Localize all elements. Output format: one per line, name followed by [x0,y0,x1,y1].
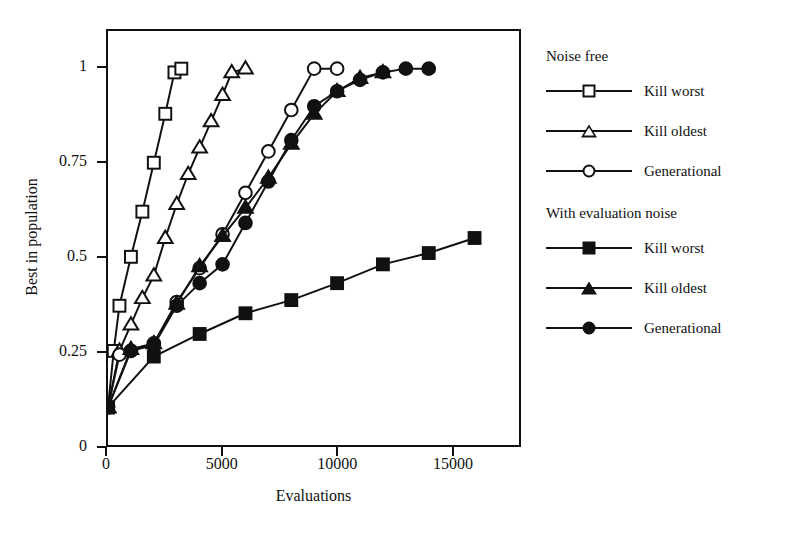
data-point [422,62,435,75]
chart-legend: Noise freeKill worstKill oldestGeneratio… [546,48,792,348]
triangle-open-icon [581,125,597,138]
data-point [193,277,206,290]
data-point [262,175,275,188]
chart-figure: 00.250.50.751 050001000015000 Evaluation… [0,0,800,538]
data-point [194,328,206,340]
data-point [204,114,219,126]
legend-marker-sample [546,277,632,299]
data-point [125,251,137,263]
legend-item[interactable]: Kill oldest [546,268,792,308]
legend-label: Generational [632,320,721,337]
circle-filled-icon [583,322,596,335]
legend-item[interactable]: Kill oldest [546,111,792,151]
legend-marker-sample [546,317,632,339]
data-point [399,62,412,75]
data-point [285,134,298,147]
series-kill-worst [108,232,481,413]
legend-item[interactable]: Kill worst [546,228,792,268]
data-point [285,294,297,306]
data-point [331,62,344,75]
data-point [148,157,160,169]
legend-label: Kill worst [632,83,704,100]
legend-marker-sample [546,120,632,142]
data-point [239,217,252,230]
data-point [377,66,390,79]
legend-item[interactable]: Kill worst [546,71,792,111]
data-point [240,307,252,319]
data-point [135,291,150,303]
y-tick-mark [97,351,106,353]
data-point [216,258,229,271]
data-point [354,74,367,87]
plot-area [106,29,521,447]
y-tick-label: 0.5 [67,248,87,264]
x-tick-label: 5000 [172,456,272,472]
x-tick-label: 0 [56,456,156,472]
circle-open-icon [583,165,596,178]
square-open-icon [583,85,596,98]
series-canvas [108,31,519,445]
legend-item[interactable]: Generational [546,308,792,348]
data-point [175,63,187,75]
data-point [331,277,343,289]
legend-group-title: With evaluation noise [546,205,792,222]
data-point [136,206,148,218]
data-point [285,104,298,117]
legend-label: Kill worst [632,240,704,257]
data-point [169,197,184,209]
y-tick-mark [97,161,106,163]
data-point [308,62,321,75]
y-tick-label: 1 [79,58,87,74]
data-point [238,61,253,73]
data-point [146,268,161,280]
legend-label: Kill oldest [632,280,707,297]
data-point [170,299,183,312]
legend-item[interactable]: Generational [546,151,792,191]
legend-group-title: Noise free [546,48,792,65]
x-tick-label: 10000 [287,456,387,472]
data-point [377,258,389,270]
triangle-filled-icon [581,282,597,295]
data-point [215,88,230,100]
y-tick-label: 0.75 [59,153,87,169]
y-tick-label: 0.25 [59,343,87,359]
y-tick-mark [97,66,106,68]
data-point [423,247,435,259]
data-point [308,100,321,113]
data-point [192,140,207,152]
x-axis-title: Evaluations [106,487,521,505]
data-point [469,232,481,244]
legend-label: Kill oldest [632,123,707,140]
data-point [147,339,160,352]
legend-marker-sample [546,237,632,259]
series-kill-oldest [108,61,253,412]
data-point [262,145,275,158]
data-point [158,231,173,243]
data-point [331,85,344,98]
data-point [124,317,139,329]
data-point [181,167,196,179]
y-axis-title: Best in population [23,127,41,347]
data-point [159,108,171,120]
series-line [108,238,475,407]
legend-marker-sample [546,160,632,182]
data-point [108,401,114,414]
y-tick-mark [97,256,106,258]
x-tick-label: 15000 [403,456,503,472]
data-point [125,345,138,358]
legend-label: Generational [632,163,721,180]
data-point [239,186,252,199]
legend-marker-sample [546,80,632,102]
data-point [114,300,126,312]
square-filled-icon [583,242,596,255]
y-tick-label: 0 [79,438,87,454]
